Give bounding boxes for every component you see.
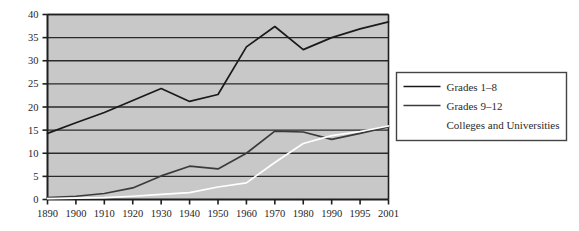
y-tick-label: 30 xyxy=(28,55,39,66)
x-tick-label: 1980 xyxy=(293,208,314,219)
x-tick-label: 1940 xyxy=(179,208,200,219)
y-tick-label: 0 xyxy=(33,194,38,205)
x-tick-label: 1990 xyxy=(321,208,342,219)
x-tick-label: 1995 xyxy=(350,208,371,219)
legend-label-2: Grades 9–12 xyxy=(447,100,503,112)
y-tick-label: 15 xyxy=(28,125,39,136)
x-tick-label: 1960 xyxy=(236,208,257,219)
y-tick-label: 35 xyxy=(28,32,39,43)
line-chart: 0510152025303540189019001910192019301940… xyxy=(0,0,579,231)
y-tick-label: 25 xyxy=(28,78,39,89)
legend-label-3: Colleges and Universities xyxy=(447,119,560,131)
x-axis: 1890190019101920193019401950196019701980… xyxy=(37,200,399,219)
legend: Grades 1–8Grades 9–12Colleges and Univer… xyxy=(397,73,567,141)
x-tick-label: 1910 xyxy=(94,208,115,219)
y-axis: 0510152025303540 xyxy=(28,9,48,205)
y-tick-label: 10 xyxy=(28,148,39,159)
x-tick-label: 1900 xyxy=(65,208,86,219)
y-tick-label: 5 xyxy=(33,171,38,182)
x-tick-label: 1950 xyxy=(208,208,229,219)
x-tick-label: 2001 xyxy=(378,208,399,219)
x-tick-label: 1890 xyxy=(37,208,58,219)
x-tick-label: 1920 xyxy=(122,208,143,219)
legend-label-1: Grades 1–8 xyxy=(447,81,498,93)
chart-container: 0510152025303540189019001910192019301940… xyxy=(0,0,579,231)
x-tick-label: 1930 xyxy=(151,208,172,219)
y-tick-label: 40 xyxy=(28,9,39,20)
x-tick-label: 1970 xyxy=(264,208,285,219)
y-tick-label: 20 xyxy=(28,102,39,113)
